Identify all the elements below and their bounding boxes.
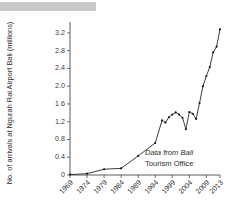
data-point <box>103 168 105 170</box>
data-point <box>192 113 194 115</box>
y-tick-label: 0.8 <box>55 134 65 143</box>
x-tick-label: 2013 <box>207 178 225 196</box>
x-tick-label: 2004 <box>177 178 195 196</box>
data-point <box>195 118 197 120</box>
data-point <box>209 66 211 68</box>
data-point <box>69 174 71 176</box>
data-point <box>168 116 170 118</box>
y-axis-title: No. of arrivals at Ngurah Rai Airport Ba… <box>5 22 14 185</box>
data-point <box>188 111 190 113</box>
y-tick-label: 2.0 <box>55 81 65 90</box>
screenshot-root: 00.40.81.21.62.02.42.83.2 19691974197919… <box>0 0 227 203</box>
y-tick-label: 0 <box>61 170 65 179</box>
x-tick-label: 1994 <box>142 178 160 196</box>
source-note-line2: Tourism Office <box>145 159 193 168</box>
x-tick-label: 1979 <box>91 178 109 196</box>
data-point <box>164 122 166 124</box>
data-point <box>212 51 214 53</box>
y-tick-label: 3.2 <box>55 28 65 37</box>
source-note-line1: Data from Bali <box>145 148 193 157</box>
data-point <box>202 85 204 87</box>
data-point <box>181 117 183 119</box>
x-tick-label: 1999 <box>160 178 178 196</box>
data-point <box>185 128 187 130</box>
data-point <box>178 114 180 116</box>
x-tick-labels: 1969197419791984198919941999200420092013 <box>57 175 225 196</box>
y-tick-label: 1.2 <box>55 117 65 126</box>
data-point <box>219 28 221 30</box>
data-point <box>137 155 139 157</box>
data-point <box>171 114 173 116</box>
data-point <box>216 46 218 48</box>
y-tick-label: 2.8 <box>55 46 65 55</box>
x-tick-label: 1989 <box>125 178 143 196</box>
y-tick-labels: 00.40.81.21.62.02.42.83.2 <box>55 28 70 179</box>
line-chart: 00.40.81.21.62.02.42.83.2 19691974197919… <box>0 0 227 203</box>
x-tick-label: 1984 <box>108 178 126 196</box>
data-point <box>175 111 177 113</box>
data-point <box>154 142 156 144</box>
data-point <box>120 167 122 169</box>
data-point <box>205 75 207 77</box>
x-tick-label: 1969 <box>57 178 75 196</box>
data-point <box>161 119 163 121</box>
x-tick-label: 1974 <box>74 178 92 196</box>
data-point <box>199 102 201 104</box>
y-tick-label: 1.6 <box>55 99 65 108</box>
y-tick-label: 2.4 <box>55 63 65 72</box>
y-tick-label: 0.4 <box>55 152 65 161</box>
data-point <box>86 173 88 175</box>
